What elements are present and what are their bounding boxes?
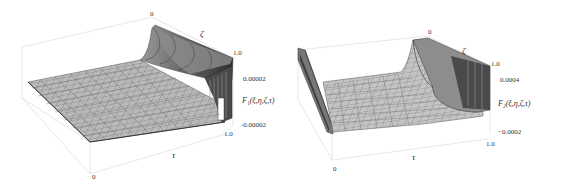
zeta-start-tick: 0 <box>428 29 432 36</box>
tau-axis-label: τ <box>412 153 415 162</box>
tau-end-tick: 1.0 <box>486 141 495 148</box>
tau-start-tick: 0 <box>92 174 96 181</box>
plot-f2: 0 ζ 1.0 0.0004 F₂(ξ,η,ζ,τ) −0.0002 1.0 τ… <box>283 0 567 183</box>
surface-plot-f2 <box>283 0 567 183</box>
function-label: F₁(ξ,η,ζ,τ) <box>242 97 275 105</box>
zeta-axis-label: ζ <box>462 47 466 56</box>
plot-f1: 0 ζ 1.0 0.00002 F₁(ξ,η,ζ,τ) -0.00002 1.0… <box>0 0 283 183</box>
zeta-start-tick: 0 <box>150 11 154 18</box>
z-tick-top: 0.0004 <box>500 77 519 84</box>
zeta-axis-label: ζ <box>200 30 204 39</box>
tau-axis-label: τ <box>172 151 175 160</box>
z-tick-bottom: -0.00002 <box>241 122 266 129</box>
zeta-end-tick: 1.0 <box>491 61 500 68</box>
function-label: F₂(ξ,η,ζ,τ) <box>498 100 531 108</box>
z-tick-top: 0.00002 <box>243 76 266 83</box>
tau-start-tick: 0 <box>333 166 337 173</box>
zeta-end-tick: 1.0 <box>233 50 242 57</box>
surface-plot-f1 <box>0 0 283 183</box>
z-tick-bottom: −0.0002 <box>498 129 521 136</box>
tau-end-tick: 1.0 <box>224 131 233 138</box>
